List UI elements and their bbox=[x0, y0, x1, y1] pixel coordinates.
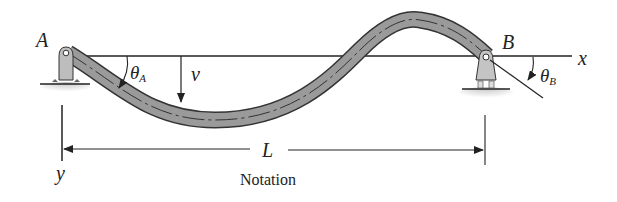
deflection-label: v bbox=[191, 64, 200, 84]
beam-diagram bbox=[0, 0, 617, 202]
figure-caption: Notation bbox=[240, 172, 296, 188]
support-a-label: A bbox=[36, 30, 48, 50]
x-axis-label: x bbox=[578, 48, 587, 68]
theta-b-subscript: B bbox=[549, 75, 556, 87]
theta-a-label: θA bbox=[130, 63, 146, 84]
length-label: L bbox=[262, 140, 273, 160]
theta-a-subscript: A bbox=[139, 72, 146, 84]
theta-a-symbol: θ bbox=[130, 62, 139, 83]
roller-support-b bbox=[456, 50, 516, 105]
support-b-label: B bbox=[502, 32, 514, 52]
theta-b-arc-icon bbox=[528, 57, 533, 80]
y-axis-label: y bbox=[56, 163, 65, 183]
theta-b-label: θB bbox=[540, 66, 556, 87]
theta-b-symbol: θ bbox=[540, 65, 549, 86]
